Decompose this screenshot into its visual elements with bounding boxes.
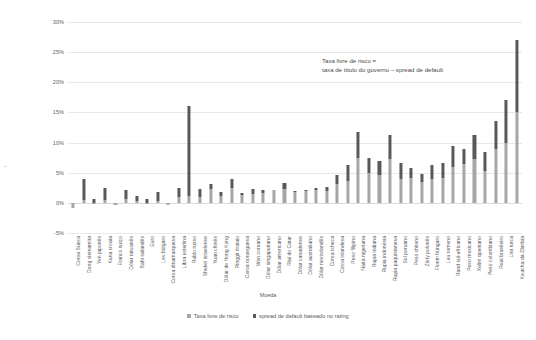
y-tick-label: 20%	[38, 79, 64, 85]
x-tick-label: Rial do Catar	[286, 236, 292, 266]
bar-column[interactable]	[237, 22, 248, 233]
bar-column[interactable]	[332, 22, 343, 233]
bar-segment-default-spread	[251, 189, 254, 194]
legend-item[interactable]: spread de default baseado no rating	[253, 313, 349, 319]
bar-column[interactable]	[163, 22, 174, 233]
bar-column[interactable]	[427, 22, 438, 233]
bar-segment-risk-free	[241, 195, 244, 203]
x-tick-label: Kwacha da Zâmbia	[519, 236, 525, 280]
bar-column[interactable]	[459, 22, 470, 233]
legend-swatch-icon	[253, 314, 257, 318]
bar-column[interactable]	[226, 22, 237, 233]
bar-segment-default-spread	[441, 163, 444, 177]
bar-segment-risk-free	[156, 201, 159, 203]
bar-segment-risk-free	[272, 190, 275, 203]
bar-column[interactable]	[343, 22, 354, 233]
bar-column[interactable]	[395, 22, 406, 233]
bar-column[interactable]	[501, 22, 512, 233]
legend-label: spread de default baseado no rating	[259, 313, 349, 319]
bar-column[interactable]	[121, 22, 132, 233]
bar-segment-default-spread	[388, 135, 391, 159]
bar-column[interactable]	[406, 22, 417, 233]
legend-item[interactable]: Taxa livre de risco	[187, 313, 238, 319]
bar-column[interactable]	[416, 22, 427, 233]
bar-column[interactable]	[279, 22, 290, 233]
bar-column[interactable]	[438, 22, 449, 233]
x-tick-label: Rand sul-africano	[455, 236, 461, 276]
bar-column[interactable]	[258, 22, 269, 233]
x-tick-label: Dólar taiwanês	[128, 236, 134, 270]
x-tick-label: Peso chileno	[413, 236, 419, 265]
x-tick-label: Xelim queniano	[476, 236, 482, 271]
bar-column[interactable]	[480, 22, 491, 233]
bar-column[interactable]	[247, 22, 258, 233]
bar-column[interactable]	[321, 22, 332, 233]
bar-segment-risk-free	[198, 197, 201, 202]
x-tick-label: Rupia indiana	[371, 236, 377, 267]
bar-column[interactable]	[353, 22, 364, 233]
x-tick-label: Dólar de Hong Kong	[223, 236, 229, 282]
bar-column[interactable]	[79, 22, 90, 233]
bar-column[interactable]	[68, 22, 79, 233]
x-tick-label: Dólar australiano	[307, 236, 313, 275]
bar-segment-risk-free	[103, 200, 106, 202]
bar-column[interactable]	[152, 22, 163, 233]
bar-segment-default-spread	[399, 163, 402, 179]
bar-segment-risk-free	[378, 175, 381, 203]
scan-artifact	[4, 166, 7, 167]
bar-column[interactable]	[469, 22, 480, 233]
bar-column[interactable]	[385, 22, 396, 233]
x-tick-label: Peso filipino	[350, 236, 356, 264]
bar-column[interactable]	[269, 22, 280, 233]
y-tick-label: 10%	[38, 140, 64, 146]
bar-column[interactable]	[110, 22, 121, 233]
bar-column[interactable]	[364, 22, 375, 233]
bar-segment-risk-free	[82, 200, 85, 203]
bar-column[interactable]	[195, 22, 206, 233]
bar-segment-risk-free	[93, 203, 96, 204]
bar-segment-default-spread	[103, 188, 106, 200]
bar-segment-risk-free	[230, 188, 233, 202]
bar-segment-risk-free	[452, 167, 455, 203]
bar-segment-risk-free	[346, 181, 349, 203]
bar-column[interactable]	[490, 22, 501, 233]
bar-segment-risk-free	[388, 159, 391, 202]
bar-column[interactable]	[89, 22, 100, 233]
bar-segment-default-spread	[125, 190, 128, 200]
bar-segment-default-spread	[452, 146, 455, 167]
bar-segment-default-spread	[410, 168, 413, 178]
x-tick-label: Dong vietnamita	[86, 236, 92, 273]
bar-segment-risk-free	[399, 179, 402, 203]
bar-segment-risk-free	[420, 182, 423, 203]
bar-segment-default-spread	[198, 189, 201, 197]
bar-segment-default-spread	[177, 188, 180, 197]
x-tick-label: Dólar canadense	[297, 236, 303, 275]
x-tick-label: Sol peruano	[402, 236, 408, 264]
bar-column[interactable]	[142, 22, 153, 233]
bar-column[interactable]	[448, 22, 459, 233]
bar-segment-default-spread	[367, 158, 370, 173]
bar-column[interactable]	[216, 22, 227, 233]
bar-segment-risk-free	[410, 178, 413, 203]
bar-column[interactable]	[205, 22, 216, 233]
bar-column[interactable]	[290, 22, 301, 233]
bar-column[interactable]	[311, 22, 322, 233]
bar-segment-risk-free	[177, 197, 180, 202]
bar-column[interactable]	[100, 22, 111, 233]
bar-segment-default-spread	[293, 191, 296, 192]
bar-segment-default-spread	[283, 183, 286, 189]
bar-segment-risk-free	[336, 184, 339, 203]
bar-segment-risk-free	[304, 191, 307, 202]
bar-column[interactable]	[184, 22, 195, 233]
bar-column[interactable]	[511, 22, 522, 233]
bar-segment-risk-free	[188, 196, 191, 203]
bar-segment-default-spread	[93, 199, 96, 203]
x-tick-label: Real brasileiro	[498, 236, 504, 269]
y-tick-label: 25%	[38, 49, 64, 55]
bar-column[interactable]	[300, 22, 311, 233]
bar-segment-default-spread	[230, 179, 233, 189]
x-tick-label: Coroa norueguesa	[244, 236, 250, 278]
bar-column[interactable]	[374, 22, 385, 233]
bar-column[interactable]	[131, 22, 142, 233]
bar-column[interactable]	[174, 22, 185, 233]
